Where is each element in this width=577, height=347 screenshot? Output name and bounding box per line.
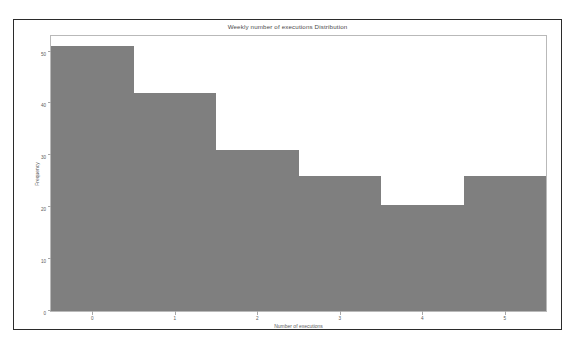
plot-area [51,36,546,311]
chart-title: Weekly number of executions Distribution [14,23,561,30]
x-axis-tick [92,311,93,315]
bar [51,46,134,311]
x-axis-tick [505,311,506,315]
x-axis-tick [340,311,341,315]
x-axis-tick-label: 1 [173,316,176,321]
x-axis-tick-label: 2 [256,316,259,321]
bar [134,93,217,311]
bar [464,176,547,311]
bar [216,150,299,311]
x-axis-tick-label: 4 [421,316,424,321]
x-axis-tick [422,311,423,315]
bar [381,205,464,311]
x-axis-tick [257,311,258,315]
x-axis-tick-label: 5 [503,316,506,321]
figure-container: Weekly number of executions Distribution… [13,19,562,330]
x-axis-label: Number of executions [51,323,546,329]
y-axis-label: Frequency [34,162,40,186]
x-axis-tick-label: 3 [338,316,341,321]
x-axis-tick-label: 0 [91,316,94,321]
page-top-margin [0,0,577,16]
plot-frame: Frequency 01020304050 012345 Number of e… [50,35,547,312]
bar [299,176,382,311]
x-axis-tick [175,311,176,315]
